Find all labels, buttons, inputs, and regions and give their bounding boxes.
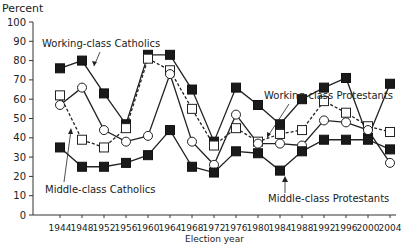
filled-square-marker: [188, 85, 197, 94]
x-tick-label: 2000: [357, 223, 380, 233]
filled-square-marker: [386, 145, 395, 154]
open-circle-marker: [188, 137, 197, 146]
annotation-label: Middle-class Catholics: [45, 184, 155, 195]
y-tick-label: 40: [13, 132, 26, 143]
filled-square-marker: [78, 162, 87, 171]
filled-square-marker: [100, 162, 109, 171]
filled-square-marker: [342, 73, 351, 82]
open-circle-marker: [56, 100, 65, 109]
filled-square-marker: [364, 135, 373, 144]
annotation-label: Middle-class Protestants: [268, 193, 389, 204]
open-square-marker: [188, 104, 197, 113]
filled-square-marker: [144, 151, 153, 160]
filled-square-marker: [276, 120, 285, 129]
filled-square-marker: [188, 162, 197, 171]
x-tick-label: 1948: [71, 223, 94, 233]
x-tick-label: 1992: [313, 223, 336, 233]
annotation-label: Working-class Catholics: [42, 38, 160, 49]
open-square-marker: [276, 129, 285, 138]
y-tick-label: 30: [13, 152, 26, 163]
open-circle-marker: [276, 139, 285, 148]
y-tick-label: 100: [7, 17, 26, 28]
y-tick-label: 50: [13, 113, 26, 124]
filled-square-marker: [342, 135, 351, 144]
open-square-marker: [342, 108, 351, 117]
open-circle-marker: [320, 116, 329, 125]
x-tick-label: 1972: [203, 223, 226, 233]
open-square-marker: [100, 143, 109, 152]
filled-square-marker: [166, 50, 175, 59]
open-square-marker: [56, 91, 65, 100]
open-circle-marker: [364, 126, 373, 135]
x-tick-label: 1964: [159, 223, 182, 233]
open-circle-marker: [254, 139, 263, 148]
open-circle-marker: [342, 118, 351, 127]
x-tick-label: 1968: [181, 223, 204, 233]
arrowhead-icon: [282, 176, 288, 182]
x-tick-label: 1956: [115, 223, 138, 233]
open-square-marker: [232, 124, 241, 133]
filled-square-marker: [78, 56, 87, 65]
open-circle-marker: [122, 137, 131, 146]
filled-square-marker: [276, 166, 285, 175]
x-tick-label: 1976: [225, 223, 248, 233]
x-tick-label: 2004: [379, 223, 402, 233]
filled-square-marker: [254, 149, 263, 158]
filled-square-marker: [254, 100, 263, 109]
open-circle-marker: [166, 70, 175, 79]
y-tick-label: 10: [13, 190, 26, 201]
x-tick-label: 1944: [49, 223, 72, 233]
filled-square-marker: [232, 147, 241, 156]
y-tick-label: 0: [20, 210, 26, 221]
y-tick-label: 20: [13, 171, 26, 182]
y-tick-label: 60: [13, 94, 26, 105]
x-axis-title: Election year: [185, 234, 244, 244]
open-circle-marker: [144, 131, 153, 140]
x-tick-label: 1996: [335, 223, 358, 233]
series-group: [56, 50, 395, 177]
annotation-working-class-catholics: Working-class Catholics: [42, 38, 160, 66]
arrowhead-icon: [68, 128, 73, 134]
annotation-middle-class-protestants: Middle-class Protestants: [268, 176, 389, 204]
open-square-marker: [210, 141, 219, 150]
filled-square-marker: [298, 147, 307, 156]
filled-square-marker: [166, 126, 175, 135]
filled-square-marker: [210, 168, 219, 177]
y-tick-label: 90: [13, 36, 26, 47]
y-axis-title: Percent: [2, 2, 44, 15]
series-line-middle-class-catholics: [60, 59, 390, 148]
open-circle-marker: [78, 83, 87, 92]
open-circle-marker: [100, 126, 109, 135]
x-tick-label: 1984: [269, 223, 292, 233]
y-tick-label: 80: [13, 55, 26, 66]
open-square-marker: [386, 128, 395, 137]
x-tick-label: 1952: [93, 223, 116, 233]
annotation-label: Working-class Protestants: [264, 90, 393, 101]
filled-square-marker: [386, 79, 395, 88]
filled-square-marker: [320, 135, 329, 144]
open-circle-marker: [232, 110, 241, 119]
series-line-working-class-protestants: [60, 74, 390, 165]
x-tick-label: 1988: [291, 223, 314, 233]
filled-square-marker: [56, 143, 65, 152]
filled-square-marker: [232, 83, 241, 92]
filled-square-marker: [100, 89, 109, 98]
filled-square-marker: [122, 158, 131, 167]
x-tick-label: 1980: [247, 223, 270, 233]
filled-square-marker: [56, 64, 65, 73]
open-circle-marker: [386, 158, 395, 167]
line-chart: Percent 01020304050607080901001944194819…: [0, 0, 408, 244]
open-square-marker: [298, 126, 307, 135]
open-square-marker: [122, 124, 131, 133]
x-tick-label: 1960: [137, 223, 160, 233]
open-square-marker: [78, 135, 87, 144]
y-tick-label: 70: [13, 74, 26, 85]
open-square-marker: [144, 54, 153, 63]
